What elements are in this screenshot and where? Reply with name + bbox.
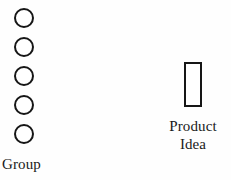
- diagram-canvas: Group Product Idea: [0, 0, 231, 180]
- group-node-circle-3[interactable]: [14, 66, 34, 86]
- group-node-circle-2[interactable]: [14, 37, 34, 57]
- product-idea-label-line-2: Idea: [152, 135, 231, 153]
- product-idea-label: Product Idea: [152, 117, 231, 153]
- group-node-stack: [14, 8, 36, 144]
- product-idea-label-line-1: Product: [152, 117, 231, 135]
- group-node-circle-1[interactable]: [14, 8, 34, 28]
- product-idea-rectangle[interactable]: [184, 62, 202, 107]
- group-label: Group: [2, 156, 41, 173]
- group-node-circle-5[interactable]: [14, 124, 34, 144]
- group-node-circle-4[interactable]: [14, 95, 34, 115]
